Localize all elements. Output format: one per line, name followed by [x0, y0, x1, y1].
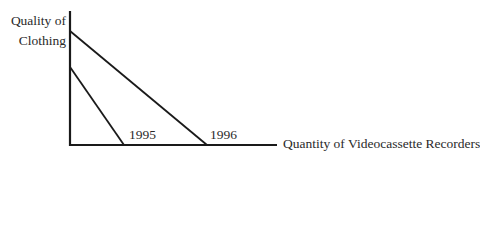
- label-1996: 1996: [210, 127, 237, 143]
- label-1995: 1995: [129, 127, 156, 143]
- x-axis-label: Quantity of Videocassette Recorders: [283, 135, 480, 153]
- ppf-line-1995: [70, 67, 124, 145]
